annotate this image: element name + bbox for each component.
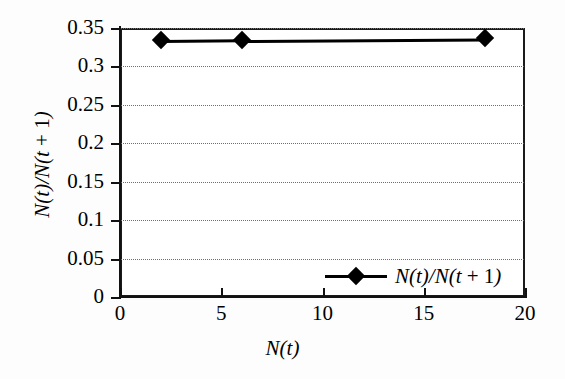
x-tick-label: 20 (495, 303, 555, 324)
x-axis-title: N(t) (0, 336, 565, 361)
y-tick-label: 0.35 (0, 17, 104, 38)
gridline (121, 259, 524, 260)
x-tick-mark (525, 288, 527, 298)
y-tick-mark (111, 28, 120, 30)
gridline (121, 143, 524, 144)
gridline (121, 182, 524, 183)
gridline (121, 105, 524, 106)
y-axis-title: N(t)/N(t + 1) (30, 45, 55, 285)
x-tick-label: 5 (191, 303, 251, 324)
gridline (121, 66, 524, 67)
x-tick-label: 10 (293, 303, 353, 324)
legend-label: N(t)/N(t + 1) (395, 264, 501, 289)
y-tick-mark (111, 259, 120, 261)
x-tick-label: 15 (394, 303, 454, 324)
y-tick-mark (111, 105, 120, 107)
y-tick-mark (111, 297, 120, 299)
figure-root: 00.050.10.150.20.250.30.35 05101520 N(t)… (0, 0, 565, 379)
plot-area (120, 28, 525, 297)
y-tick-mark (111, 66, 120, 68)
y-tick-mark (111, 220, 120, 222)
legend: N(t)/N(t + 1) (325, 261, 501, 291)
y-tick-mark (111, 182, 120, 184)
gridline (121, 220, 524, 221)
x-tick-label: 0 (90, 303, 150, 324)
y-tick-label: 0 (0, 286, 104, 307)
legend-diamond-marker-icon (325, 269, 387, 283)
x-tick-mark (120, 288, 122, 298)
x-tick-mark (221, 288, 223, 298)
y-tick-mark (111, 143, 120, 145)
gridline (121, 28, 524, 29)
